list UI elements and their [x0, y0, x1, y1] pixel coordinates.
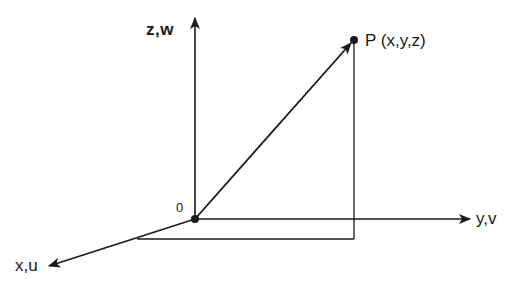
origin-point [191, 215, 199, 223]
z-axis-label: z,w [146, 21, 174, 38]
point-p-label: P (x,y,z) [365, 32, 426, 49]
x-axis-label: x,u [15, 257, 38, 274]
position-vector [195, 43, 351, 219]
origin-label: 0 [176, 201, 183, 214]
x-axis [49, 219, 195, 266]
point-p [350, 36, 358, 44]
y-axis-label: y,v [476, 210, 496, 227]
diagram-canvas [0, 0, 520, 295]
